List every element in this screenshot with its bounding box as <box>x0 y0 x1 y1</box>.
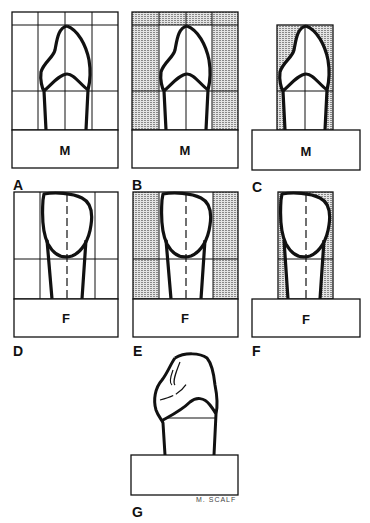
panel-e: F E <box>133 192 238 359</box>
base-label: F <box>62 311 70 326</box>
base-label: M <box>180 143 191 158</box>
panel-label: B <box>132 177 142 193</box>
panel-label: G <box>132 504 143 520</box>
base-label: M <box>301 144 312 159</box>
panel-d: F D <box>13 192 118 359</box>
base-label: F <box>181 311 189 326</box>
panel-a: M A <box>12 12 118 193</box>
panel-f: F F <box>252 192 360 359</box>
panel-label: D <box>13 343 23 359</box>
base-label: M <box>60 143 71 158</box>
panel-c: M C <box>252 25 360 195</box>
panel-label: F <box>252 343 261 359</box>
panel-b: M B <box>132 12 238 193</box>
panel-label: C <box>252 179 262 195</box>
dental-diagram: M A M B M C F D <box>0 0 370 523</box>
tooth-crown-outline <box>155 354 217 455</box>
panel-label: A <box>13 177 23 193</box>
signature: M. SCALF <box>196 496 236 503</box>
base-label: F <box>302 312 310 327</box>
panel-g: M. SCALF G <box>131 354 238 520</box>
panel-label: E <box>133 343 142 359</box>
